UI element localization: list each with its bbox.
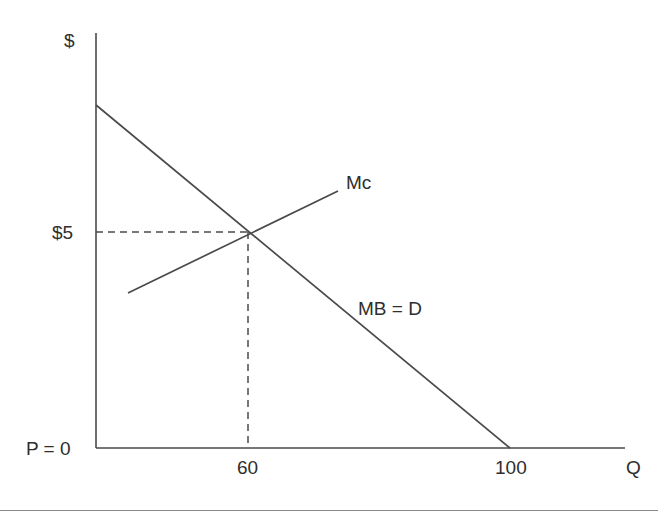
x-axis-title: Q bbox=[626, 458, 641, 477]
economics-supply-demand-figure: $ Q $5 P = 0 60 100 Mc MB = D bbox=[0, 0, 658, 514]
marginal-cost-curve bbox=[128, 191, 338, 293]
footer-divider bbox=[0, 510, 658, 511]
marginal-benefit-demand-curve-label: MB = D bbox=[358, 299, 422, 318]
chart-canvas bbox=[0, 0, 658, 514]
x-tick-label-100: 100 bbox=[495, 458, 527, 477]
y-tick-label-price: $5 bbox=[52, 223, 73, 242]
origin-price-zero-label: P = 0 bbox=[26, 439, 71, 458]
marginal-benefit-demand-curve bbox=[96, 105, 510, 448]
marginal-cost-curve-label: Mc bbox=[346, 173, 371, 192]
y-axis-title: $ bbox=[64, 31, 75, 50]
x-tick-label-60: 60 bbox=[237, 458, 258, 477]
